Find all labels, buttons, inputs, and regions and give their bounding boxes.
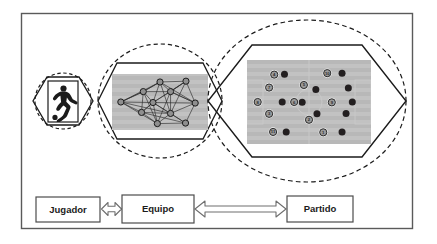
team-graph-node bbox=[157, 79, 163, 85]
team-graph-node bbox=[167, 89, 173, 95]
numbered-player-marker: 3 bbox=[265, 109, 274, 118]
flow-node-partido[interactable]: Partido bbox=[287, 196, 353, 222]
solid-player-marker bbox=[339, 128, 346, 135]
numbered-player-marker: 5 bbox=[299, 80, 308, 89]
numbered-player-marker: 10 bbox=[323, 69, 332, 78]
solid-player-marker bbox=[343, 110, 350, 117]
team-graph-node bbox=[167, 110, 173, 116]
player-number-label: 10 bbox=[325, 71, 330, 76]
hierarchy-diagram: 4105786932111 Jugador Equipo bbox=[0, 0, 437, 244]
numbered-player-marker: 8 bbox=[253, 97, 262, 106]
numbered-player-marker: 11 bbox=[268, 127, 277, 136]
team-graph-node bbox=[183, 78, 189, 84]
solid-player-marker bbox=[299, 99, 306, 106]
team-graph-node bbox=[192, 100, 198, 106]
solid-player-marker bbox=[312, 86, 319, 93]
numbered-player-marker: 9 bbox=[327, 98, 336, 107]
solid-player-marker bbox=[283, 128, 290, 135]
solid-player-marker bbox=[349, 99, 356, 106]
solid-player-marker bbox=[281, 71, 288, 78]
team-graph-node bbox=[154, 120, 160, 126]
flow-row: Jugador Equipo Partido bbox=[36, 195, 353, 223]
numbered-player-marker: 2 bbox=[304, 115, 313, 124]
team-graph-node bbox=[182, 120, 188, 126]
team-graph-node bbox=[138, 109, 144, 115]
team-graph-node bbox=[118, 99, 124, 105]
numbered-player-marker: 6 bbox=[290, 97, 299, 106]
solid-player-marker bbox=[339, 70, 346, 77]
flow-node-jugador[interactable]: Jugador bbox=[36, 197, 100, 222]
flow-node-equipo-label: Equipo bbox=[142, 203, 174, 214]
solid-player-marker bbox=[313, 110, 320, 117]
flow-node-jugador-label: Jugador bbox=[49, 204, 87, 215]
numbered-player-marker: 4 bbox=[270, 70, 279, 79]
flow-node-equipo[interactable]: Equipo bbox=[122, 195, 194, 223]
team-graph-node bbox=[150, 99, 156, 105]
flow-node-partido-label: Partido bbox=[304, 203, 337, 214]
solid-player-marker bbox=[345, 84, 352, 91]
solid-player-marker bbox=[279, 99, 286, 106]
numbered-player-marker: 7 bbox=[265, 83, 274, 92]
player-number-label: 11 bbox=[271, 129, 276, 134]
numbered-player-marker: 1 bbox=[319, 128, 328, 137]
team-graph-node bbox=[140, 89, 146, 95]
